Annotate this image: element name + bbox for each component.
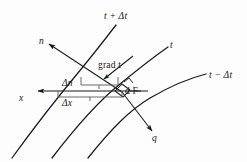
normal-chord-line (84, 67, 122, 92)
label-delta-n: Δn (62, 79, 73, 89)
label-x-axis: x (19, 94, 23, 104)
label-delta-x: Δx (62, 99, 72, 109)
normal-vector-group (49, 44, 84, 67)
heat-flux-vector-line (122, 92, 152, 131)
flux-direction-group (84, 67, 152, 131)
right-angle-marker (124, 78, 133, 83)
diagram-svg (0, 0, 247, 162)
label-isotherm-t: t (170, 41, 173, 51)
delta-n-bracket (81, 77, 118, 85)
label-heat-flux-q: q (152, 134, 157, 144)
normal-vector-line (49, 44, 84, 67)
label-area-element-dF: d F (125, 87, 138, 97)
label-gradient: grad t (98, 61, 121, 71)
label-isotherm-t-minus-delta-t: t − Δt (209, 71, 232, 81)
label-normal-vector-n: n (39, 37, 44, 47)
isotherm-t-minus-delta-t-curve (88, 74, 206, 158)
figure-canvas: t + Δt t t − Δt n x q grad t Δn Δx d F (0, 0, 247, 162)
label-isotherm-t-plus-delta-t: t + Δt (104, 12, 127, 22)
delta-x-bracket (58, 91, 122, 97)
delta-n-measure-group (81, 77, 118, 89)
